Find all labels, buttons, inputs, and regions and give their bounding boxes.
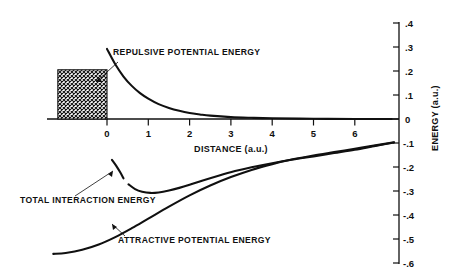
y-tick-label-m6: -.6 (403, 258, 414, 269)
x-tick-label-1: 1 (146, 128, 152, 139)
total-interaction-label: TOTAL INTERACTION ENERGY (20, 195, 156, 205)
repulsive-annotation: REPULSIVE POTENTIAL ENERGY (96, 47, 260, 82)
y-tick-label-p3: .3 (405, 42, 413, 53)
y-tick-label-m1: -.1 (403, 138, 415, 149)
total-interaction-curve-segment-1 (112, 160, 124, 178)
x-axis-ticks (107, 119, 355, 126)
potential-energy-figure: 0 1 2 3 4 5 6 DISTANCE (a.u.) (0, 0, 450, 275)
attractive-annotation: ATTRACTIVE POTENTIAL ENERGY (112, 224, 271, 245)
y-tick-label-p2: .2 (405, 66, 413, 77)
x-tick-label-2: 2 (187, 128, 192, 139)
total-arrowhead (108, 171, 113, 177)
y-axis-title: ENERGY (a.u.) (430, 85, 440, 151)
total-annotation: TOTAL INTERACTION ENERGY (20, 171, 156, 205)
y-tick-label-m2: -.2 (403, 162, 414, 173)
repulsive-potential-label: REPULSIVE POTENTIAL ENERGY (113, 47, 260, 57)
plot-area: 0 1 2 3 4 5 6 DISTANCE (a.u.) (0, 0, 450, 275)
x-tick-label-3: 3 (228, 128, 233, 139)
x-tick-label-0: 0 (104, 128, 109, 139)
cross-hatched-core-region (58, 70, 107, 119)
x-tick-label-5: 5 (311, 128, 317, 139)
attractive-arrowhead (112, 224, 117, 230)
repulsive-potential-curve (107, 49, 392, 119)
y-tick-label-m5: -.5 (403, 234, 415, 245)
total-leader-line (75, 171, 113, 196)
y-tick-label-p4: .4 (405, 18, 414, 29)
y-axis: .4 .3 .2 .1 0 -.1 -.2 -.3 -.4 -.5 -.6 EN… (393, 18, 440, 269)
y-tick-label-0: 0 (405, 114, 410, 125)
attractive-potential-label: ATTRACTIVE POTENTIAL ENERGY (118, 235, 271, 245)
y-tick-label-m3: -.3 (403, 186, 414, 197)
x-tick-label-4: 4 (270, 128, 276, 139)
y-tick-label-p1: .1 (405, 90, 414, 101)
x-axis-title: DISTANCE (a.u.) (194, 144, 268, 154)
x-axis: 0 1 2 3 4 5 6 DISTANCE (a.u.) (47, 119, 399, 154)
y-tick-label-m4: -.4 (403, 210, 415, 221)
x-tick-label-6: 6 (352, 128, 357, 139)
